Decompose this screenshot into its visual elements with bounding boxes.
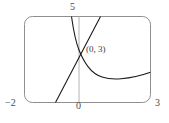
curve-path <box>72 17 151 80</box>
axis-label-origin: 0 <box>76 101 81 111</box>
axis-label-x-min: −2 <box>5 98 16 108</box>
axis-label-y-max: 5 <box>70 2 75 12</box>
axis-label-x-max: 3 <box>155 98 160 108</box>
figure-container: 5 −2 0 3 (0, 3) <box>0 0 169 123</box>
plot-frame <box>25 17 151 103</box>
point-annotation: (0, 3) <box>86 45 106 54</box>
tangent-line <box>56 17 101 103</box>
plot-canvas <box>0 0 169 123</box>
